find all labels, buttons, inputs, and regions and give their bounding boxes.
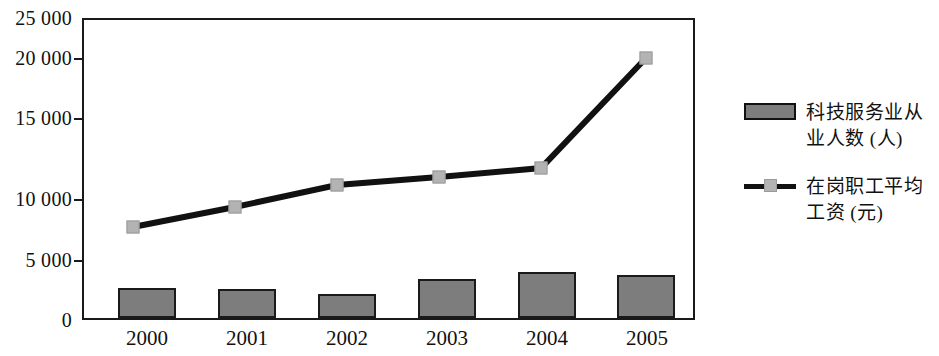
y-tick-label-15000: 15 000 bbox=[15, 108, 72, 128]
bar-2000 bbox=[118, 288, 176, 318]
x-tick-label-2003: 2003 bbox=[426, 326, 468, 350]
bar-2005 bbox=[617, 275, 675, 318]
x-tick-label-2002: 2002 bbox=[326, 326, 368, 350]
x-tick-label-2001: 2001 bbox=[226, 326, 268, 350]
bar-2004 bbox=[518, 272, 576, 318]
line-marker-2003 bbox=[433, 171, 446, 184]
line-marker-2000 bbox=[127, 221, 140, 234]
y-tick-label-25000: 25 000 bbox=[15, 8, 72, 28]
legend-item-average-wage: 在岗职工平均工资 (元) bbox=[742, 174, 932, 226]
legend-label-employment: 科技服务业从业人数 (人) bbox=[806, 100, 932, 152]
line-marker-2004 bbox=[535, 162, 548, 175]
chart-figure: 25 000 20 000 15 000 10 000 5 000 0 2000… bbox=[0, 0, 939, 356]
bar-2003 bbox=[418, 279, 476, 318]
y-axis: 25 000 20 000 15 000 10 000 5 000 0 bbox=[0, 0, 72, 356]
x-tick-label-2000: 2000 bbox=[126, 326, 168, 350]
legend-key-line bbox=[742, 174, 800, 198]
legend-key-bar bbox=[742, 100, 800, 124]
y-tick-label-10000: 10 000 bbox=[15, 189, 72, 209]
y-tick-label-20000: 20 000 bbox=[15, 48, 72, 68]
y-tick-label-5000: 5 000 bbox=[26, 250, 73, 270]
x-tick-label-2005: 2005 bbox=[626, 326, 668, 350]
bar-2001 bbox=[218, 289, 276, 318]
bar-2002 bbox=[318, 294, 376, 318]
line-marker-2001 bbox=[229, 201, 242, 214]
line-marker-2002 bbox=[331, 179, 344, 192]
x-tick-label-2004: 2004 bbox=[526, 326, 568, 350]
y-tick-label-0: 0 bbox=[62, 310, 72, 330]
legend: 科技服务业从业人数 (人) 在岗职工平均工资 (元) bbox=[742, 100, 932, 248]
line-marker-swatch-icon bbox=[764, 179, 777, 192]
line-marker-2005 bbox=[640, 52, 653, 65]
plot-frame bbox=[82, 18, 695, 320]
bar-swatch-icon bbox=[744, 103, 796, 120]
legend-item-employment: 科技服务业从业人数 (人) bbox=[742, 100, 932, 152]
legend-label-average-wage: 在岗职工平均工资 (元) bbox=[806, 174, 932, 226]
